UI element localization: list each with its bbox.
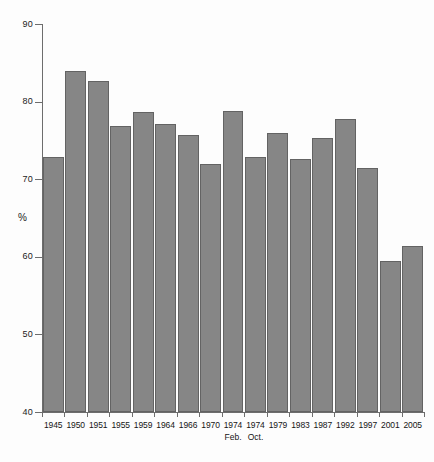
x-axis-tick bbox=[289, 412, 290, 417]
y-axis-tick-label: 70 bbox=[3, 175, 33, 184]
bar bbox=[267, 133, 288, 412]
y-axis-tick bbox=[35, 334, 43, 335]
y-axis-title: % bbox=[18, 213, 27, 223]
x-axis-sublabels: Feb.Oct. bbox=[0, 432, 434, 446]
y-axis-tick-label: 90 bbox=[3, 20, 33, 29]
y-axis-tick bbox=[35, 257, 43, 258]
bar bbox=[380, 261, 401, 412]
x-axis-sublabel: Oct. bbox=[238, 432, 272, 442]
x-axis-tick-label: 2005 bbox=[396, 420, 430, 430]
bar-chart: 405060708090 % 1945195019511955195919641… bbox=[0, 0, 434, 462]
bar bbox=[110, 126, 131, 412]
y-axis-tick-label: 60 bbox=[3, 252, 33, 261]
bar bbox=[133, 112, 154, 412]
x-axis-tick bbox=[267, 412, 268, 417]
x-axis-tick bbox=[222, 412, 223, 417]
x-axis-tick bbox=[64, 412, 65, 417]
y-axis-tick bbox=[35, 179, 43, 180]
bar bbox=[335, 119, 356, 412]
bar bbox=[155, 124, 176, 412]
bar bbox=[223, 111, 244, 412]
bar bbox=[357, 168, 378, 412]
x-axis-tick bbox=[312, 412, 313, 417]
bar bbox=[65, 71, 86, 412]
bar bbox=[178, 135, 199, 412]
y-axis-tick bbox=[35, 102, 43, 103]
x-axis-tick bbox=[87, 412, 88, 417]
y-axis-tick bbox=[35, 24, 43, 25]
bar bbox=[245, 157, 266, 412]
x-axis-tick bbox=[424, 412, 425, 417]
x-axis-ticks bbox=[0, 412, 434, 418]
x-axis-tick bbox=[379, 412, 380, 417]
x-axis-tick bbox=[132, 412, 133, 417]
x-axis-tick bbox=[177, 412, 178, 417]
x-axis-tick bbox=[199, 412, 200, 417]
x-axis-tick bbox=[154, 412, 155, 417]
plot-area bbox=[42, 24, 424, 412]
bar bbox=[200, 164, 221, 412]
bar bbox=[402, 246, 423, 412]
bar bbox=[312, 138, 333, 412]
y-axis-tick-label: 50 bbox=[3, 330, 33, 339]
bar bbox=[43, 157, 64, 412]
x-axis-tick bbox=[357, 412, 358, 417]
x-axis-tick bbox=[244, 412, 245, 417]
bar bbox=[290, 159, 311, 412]
x-axis-tick bbox=[402, 412, 403, 417]
y-axis-tick bbox=[35, 412, 43, 413]
x-axis-tick bbox=[334, 412, 335, 417]
y-axis-tick-labels: 405060708090 bbox=[0, 0, 33, 462]
x-axis-tick bbox=[109, 412, 110, 417]
y-axis-tick-label: 80 bbox=[3, 97, 33, 106]
bar bbox=[88, 81, 109, 412]
